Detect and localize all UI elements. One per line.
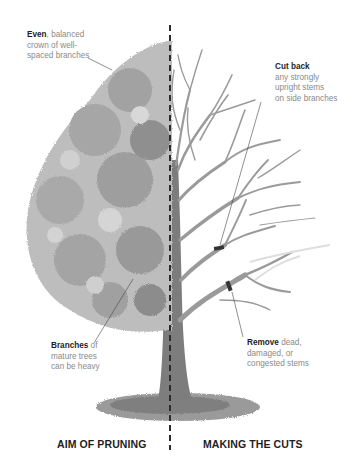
annotation-even-bold: Even: [27, 30, 47, 39]
annotation-branches-line2: mature trees: [51, 352, 97, 361]
annotation-cut-back-line3: upright stems: [275, 83, 324, 92]
annotation-cut-back-bold: Cut back: [275, 62, 310, 71]
annotation-even-rest: , balanced: [47, 30, 85, 39]
annotation-cut-back-line2: any strongly: [275, 73, 319, 82]
section-title-aim-of-pruning: AIM OF PRUNING: [57, 438, 146, 450]
annotation-remove-line3: congested stems: [247, 359, 309, 368]
pruning-diagram: Even, balanced crown of well- spaced bra…: [0, 0, 351, 476]
annotation-branches-rest: of: [88, 341, 97, 350]
section-title-making-the-cuts: MAKING THE CUTS: [203, 438, 303, 450]
annotation-remove-bold: Remove: [247, 338, 279, 347]
annotation-branches-bold: Branches: [51, 341, 88, 350]
annotation-even: Even, balanced crown of well- spaced bra…: [27, 30, 89, 62]
annotation-remove-line2: damaged, or: [247, 349, 293, 358]
annotation-branches: Branches of mature trees can be heavy: [51, 341, 100, 373]
annotation-remove-rest: dead,: [279, 338, 302, 347]
annotation-cut-back: Cut back any strongly upright stems on s…: [275, 62, 337, 104]
annotation-remove: Remove dead, damaged, or congested stems: [247, 338, 309, 370]
cut-mark-upper: [214, 245, 225, 251]
foliage-crown: [27, 40, 172, 332]
annotation-even-line3: spaced branches: [27, 51, 89, 60]
annotation-even-line2: crown of well-: [27, 41, 77, 50]
annotation-cut-back-line4: on side branches: [275, 94, 337, 103]
annotation-branches-line3: can be heavy: [51, 362, 100, 371]
faded-branches: [250, 245, 330, 280]
